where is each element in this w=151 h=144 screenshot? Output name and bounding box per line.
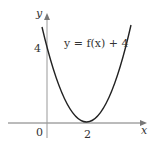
y-tick-4-label: 4 xyxy=(34,42,41,55)
x-tick-2-label: 2 xyxy=(84,128,91,141)
curve-label: y = f(x) + 4 xyxy=(63,37,129,50)
y-axis-label: y xyxy=(35,7,43,20)
x-axis-label: x xyxy=(141,124,148,137)
chart: y x 0 2 4 y = f(x) + 4 xyxy=(0,0,151,144)
y-axis-arrow-icon xyxy=(44,13,50,20)
origin-label: 0 xyxy=(36,126,43,139)
